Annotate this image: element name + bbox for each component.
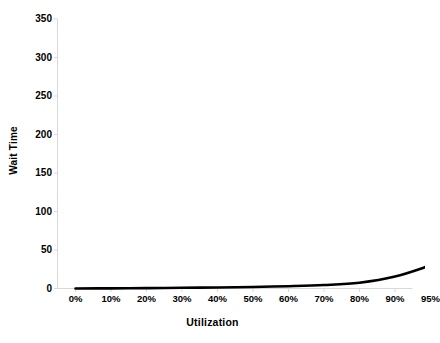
x-axis-tick-label: 70% (314, 294, 333, 304)
x-axis-tick-label: 60% (279, 294, 298, 304)
axis-lines (58, 19, 413, 289)
x-axis-tick-label: 80% (350, 294, 369, 304)
x-axis-tick-label: 95% (421, 294, 440, 304)
y-axis-ticks (54, 19, 58, 289)
x-axis-tick-label: 30% (172, 294, 191, 304)
x-axis-tick-label: 0% (69, 294, 83, 304)
x-axis-title: Utilization (0, 316, 425, 328)
data-series-line (76, 265, 426, 288)
x-axis-tick-label: 40% (208, 294, 227, 304)
x-axis-tick-label: 90% (385, 294, 404, 304)
x-axis-tick-labels: 0%10%20%30%40%50%60%70%80%90%95% (0, 294, 425, 310)
x-axis-tick-label: 10% (101, 294, 120, 304)
x-axis-tick-label: 20% (137, 294, 156, 304)
x-axis-tick-label: 50% (243, 294, 262, 304)
